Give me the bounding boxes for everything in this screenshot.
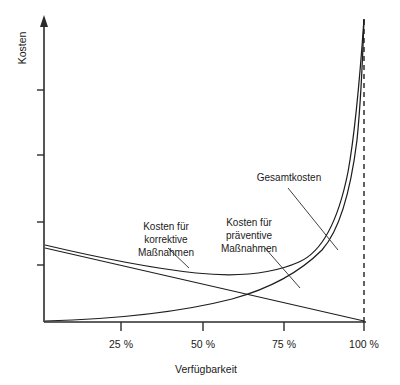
- y-axis-title: Kosten: [16, 32, 28, 65]
- axis-group: [40, 15, 366, 322]
- chart-svg: 25 % 50 % 75 % 100 % Verfügbarkeit Koste…: [0, 0, 400, 385]
- x-tick-label-75: 75 %: [272, 338, 296, 350]
- y-tick-marks: [37, 90, 44, 265]
- cost-availability-chart: 25 % 50 % 75 % 100 % Verfügbarkeit Koste…: [0, 0, 400, 385]
- series-preventive-costs: [45, 19, 364, 321]
- annotation-preventive-line1: Kosten für: [226, 217, 272, 228]
- annotation-corrective-line1: Kosten für: [143, 221, 189, 232]
- leader-total: [288, 188, 338, 250]
- annotation-corrective-line3: Maßnahmen: [138, 247, 194, 258]
- series-total-costs: [45, 19, 364, 275]
- x-tick-marks: [121, 322, 364, 331]
- leader-preventive: [265, 248, 300, 288]
- y-axis-arrow-icon: [40, 15, 48, 27]
- annotation-corrective-costs: Kosten für korrektive Maßnahmen: [138, 221, 194, 258]
- x-tick-label-50: 50 %: [191, 338, 215, 350]
- annotation-preventive-line3: Maßnahmen: [221, 243, 277, 254]
- x-tick-label-25: 25 %: [109, 338, 133, 350]
- x-axis-title: Verfügbarkeit: [175, 363, 237, 375]
- x-tick-label-100: 100 %: [349, 338, 379, 350]
- annotation-preventive-line2: präventive: [226, 230, 273, 241]
- annotation-total-costs: Gesamtkosten: [257, 172, 321, 183]
- series-corrective-costs: [45, 248, 364, 321]
- annotation-preventive-costs: Kosten für präventive Maßnahmen: [221, 217, 277, 254]
- annotation-corrective-line2: korrektive: [144, 234, 188, 245]
